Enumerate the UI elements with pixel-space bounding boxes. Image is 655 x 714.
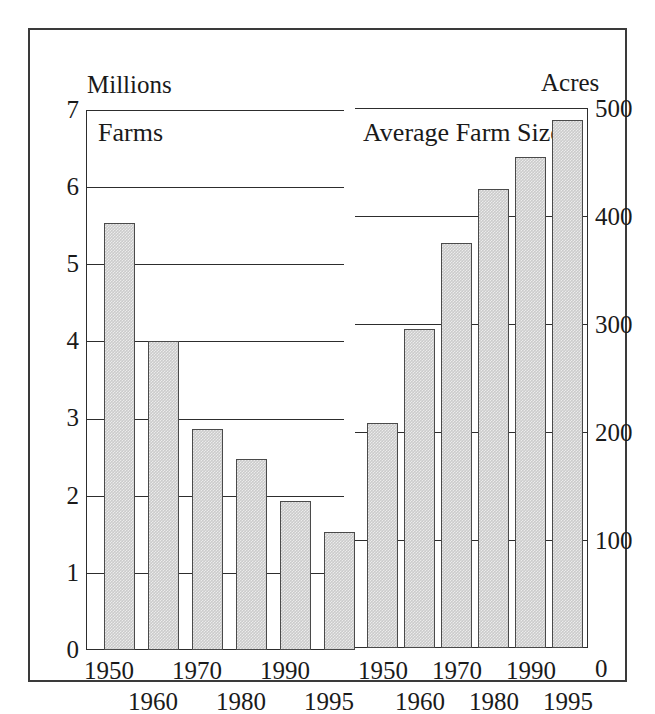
left-plot-area: Farms (86, 110, 344, 650)
left-chart-title: Farms (98, 120, 163, 146)
left-xtick-1970: 1970 (157, 658, 237, 683)
right-xtick-1995: 1995 (528, 689, 608, 714)
left-ytick-7: 7 (51, 97, 79, 122)
bar-size-1995 (552, 120, 583, 648)
chart-farms: Millions Farms 7 6 5 4 (59, 80, 345, 680)
right-ytick-500: 500 (595, 96, 655, 121)
right-plot-area: Average Farm Size (355, 108, 587, 648)
bar-farms-1995 (324, 532, 355, 650)
bar-farms-1970 (192, 429, 223, 650)
left-unit-label: Millions (87, 72, 172, 97)
bar-size-1970 (441, 243, 472, 648)
right-xtick-1950: 1950 (343, 658, 423, 683)
right-ytick-0: 0 (595, 656, 655, 681)
right-ytick-400: 400 (595, 204, 655, 229)
chart-average-farm-size: Acres Average Farm Size 500 400 300 200 … (355, 80, 645, 680)
left-ytick-2: 2 (51, 483, 79, 508)
right-unit-label: Acres (541, 70, 599, 95)
left-xtick-1995: 1995 (289, 689, 369, 714)
right-ytick-200: 200 (595, 420, 655, 445)
bar-size-1950 (367, 423, 398, 648)
right-xtick-1960: 1960 (380, 689, 460, 714)
right-gridline-500 (355, 108, 587, 109)
right-xtick-1990: 1990 (491, 658, 571, 683)
bar-farms-1990 (280, 501, 311, 650)
bar-farms-1950 (104, 223, 135, 650)
bar-farms-1980 (236, 459, 267, 650)
right-ytick-100: 100 (595, 528, 655, 553)
figure-frame: Millions Farms 7 6 5 4 (28, 28, 627, 682)
left-gridline-7 (86, 110, 344, 111)
left-ytick-3: 3 (51, 405, 79, 430)
bar-farms-1960 (148, 341, 179, 650)
left-y-axis (86, 110, 87, 650)
left-xtick-1960: 1960 (113, 689, 193, 714)
right-xtick-1970: 1970 (417, 658, 497, 683)
left-gridline-6 (86, 187, 344, 188)
left-xtick-1990: 1990 (245, 658, 325, 683)
right-ytick-300: 300 (595, 312, 655, 337)
left-ytick-6: 6 (51, 174, 79, 199)
left-ytick-4: 4 (51, 328, 79, 353)
left-ytick-1: 1 (51, 560, 79, 585)
left-xtick-1980: 1980 (201, 689, 281, 714)
left-xtick-1950: 1950 (69, 658, 149, 683)
left-ytick-5: 5 (51, 251, 79, 276)
right-chart-title: Average Farm Size (363, 120, 562, 146)
right-y-axis (587, 108, 588, 648)
right-xtick-1980: 1980 (454, 689, 534, 714)
bar-size-1980 (478, 189, 509, 648)
bar-size-1990 (515, 157, 546, 648)
bar-size-1960 (404, 329, 435, 648)
